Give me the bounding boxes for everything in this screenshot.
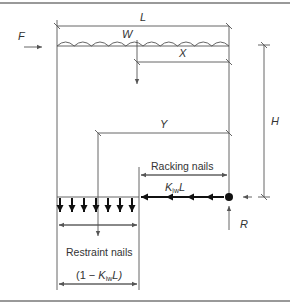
racking-nails-label: Racking nails [151, 160, 213, 172]
restraint-nails-label: Restraint nails [66, 246, 133, 258]
load-offset-label: X [178, 47, 187, 59]
racking-diagram: F L W X H Y [0, 0, 290, 308]
dimension-l: L [54, 11, 232, 46]
length-label: L [140, 11, 146, 23]
reaction-arrow-r: R [229, 206, 248, 230]
load-label: W [122, 28, 134, 40]
dimension-racking-nails: Racking nails KiwL [139, 160, 227, 290]
racking-length-label: KiwL [165, 181, 185, 194]
dimension-restraint-length: (1 − KiwL) [59, 269, 137, 284]
force-arrow-f: F [18, 30, 42, 47]
restraint-length-label: (1 − KiwL) [76, 269, 122, 282]
racking-nail-forces [141, 193, 233, 201]
pivot-point [225, 193, 233, 201]
reaction-label: R [240, 218, 248, 230]
distributed-load-w: W [57, 28, 229, 84]
dimension-h: H [243, 42, 279, 200]
height-label: H [271, 115, 279, 127]
dimension-y: Y [95, 118, 232, 236]
restraint-offset-label: Y [160, 118, 168, 130]
dimension-x: X [134, 47, 232, 65]
force-label: F [18, 30, 26, 42]
restraint-nail-forces [60, 198, 132, 212]
